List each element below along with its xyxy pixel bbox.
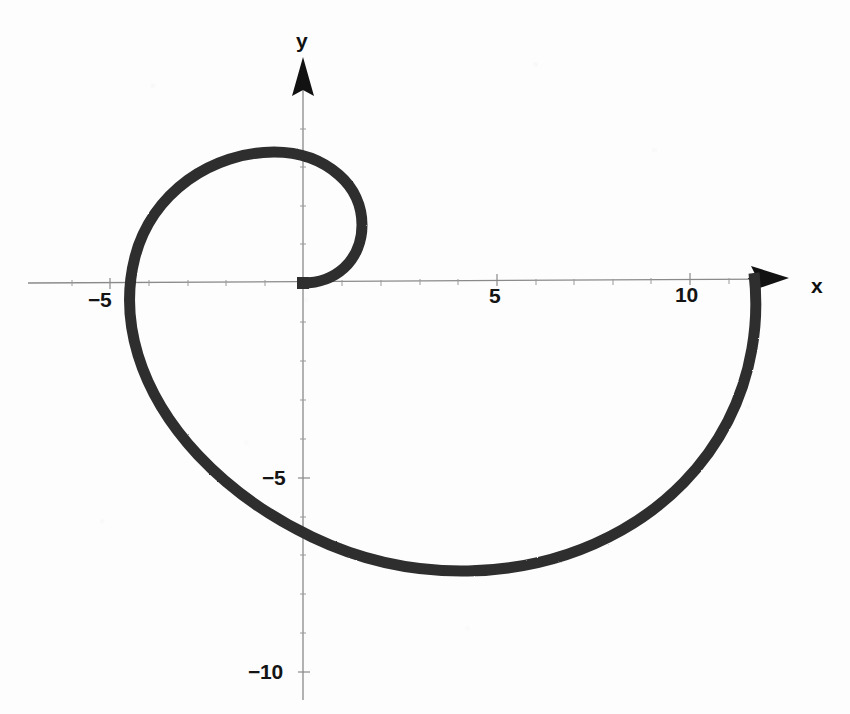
spiral-curve-group [130, 152, 756, 571]
y-axis-label: y [296, 29, 308, 53]
x-tick-label-5: 5 [489, 284, 500, 308]
spiral-plot-svg [0, 0, 850, 714]
x-tick-label-10: 10 [675, 283, 698, 307]
y-tick-label-minus-10: −10 [248, 660, 283, 684]
spiral-curve [130, 152, 756, 571]
x-axis-label: x [811, 274, 823, 298]
y-axis-major-ticks [298, 478, 310, 672]
spiral-origin-marker [297, 277, 309, 289]
spiral-figure: x y −5 5 10 −5 −10 [0, 0, 850, 714]
x-axis-line [28, 279, 775, 283]
x-tick-label-minus-5: −5 [88, 288, 112, 312]
y-tick-label-minus-5: −5 [262, 466, 286, 490]
